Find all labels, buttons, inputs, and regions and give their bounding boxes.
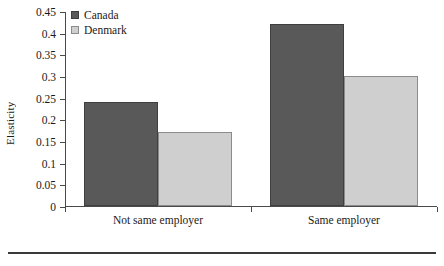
plot-area: 00.050.10.150.20.250.30.350.40.45 [65,12,437,207]
legend-item-canada[interactable]: Canada [71,8,127,22]
legend-item-label: Canada [84,8,118,22]
y-axis-tick-mark [60,99,65,100]
y-axis-tick-label: 0.45 [36,4,56,20]
y-axis-tick-label: 0 [50,199,56,215]
y-axis-line [65,12,66,207]
bar-canada-same-employer [270,24,344,206]
y-axis-tick-label: 0.2 [42,112,56,128]
legend-item-label: Denmark [84,23,127,37]
bar-denmark-same-employer [344,76,418,206]
y-axis-tick-mark [60,120,65,121]
y-axis-tick-label: 0.05 [36,177,56,193]
legend-swatch-icon [71,26,79,34]
bottom-divider-rule [8,252,436,254]
y-axis-tick-label: 0.3 [42,69,56,85]
x-axis-group-label: Same employer [251,212,437,228]
x-axis-tick-mark [437,207,438,212]
x-axis-group-label: Not same employer [65,212,251,228]
y-axis-tick-mark [60,164,65,165]
y-axis-tick-mark [60,12,65,13]
y-axis-tick-mark [60,142,65,143]
y-axis-tick-label: 0.35 [36,47,56,63]
y-axis-tick-label: 0.25 [36,91,56,107]
y-axis-tick-label: 0.15 [36,134,56,150]
y-axis-tick-label: 0.1 [42,156,56,172]
y-axis-tick-label: 0.4 [42,26,56,42]
bar-chart-figure: Elasticity 00.050.10.150.20.250.30.350.4… [0,0,444,266]
bar-denmark-not-same-employer [158,132,232,206]
bar-canada-not-same-employer [84,102,158,206]
legend-item-denmark[interactable]: Denmark [71,23,127,37]
legend-swatch-icon [71,11,79,19]
chart-legend: CanadaDenmark [71,8,127,38]
y-axis-title: Elasticity [2,78,18,168]
y-axis-tick-mark [60,55,65,56]
y-axis-tick-mark [60,34,65,35]
y-axis-tick-mark [60,185,65,186]
y-axis-tick-mark [60,77,65,78]
